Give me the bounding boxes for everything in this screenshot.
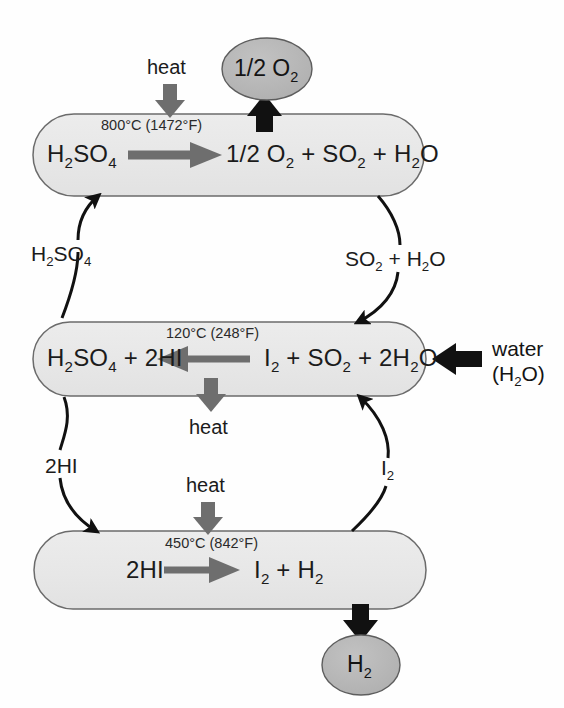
bubble-label-oxygen: 1/2 O2 (234, 57, 298, 84)
heat-arrow-in-top (155, 84, 185, 118)
heat-label-middle: heat (189, 417, 228, 437)
recycle-label-sulfuric-acid: H2SO4 (31, 243, 91, 268)
recycle-path-hydrogen-iodide-lower (60, 478, 96, 531)
recycle-label-iodine: I2 (381, 457, 394, 482)
recycle-path-iodine-lower (352, 486, 386, 531)
recycle-label-sulfur-dioxide-water: SO2 + H2O (345, 248, 446, 273)
temperature-label-bottom: 450°C (842°F) (165, 536, 258, 551)
recycle-path-sulfur-dioxide-upper (378, 196, 400, 245)
feed-arrow-water (432, 343, 482, 375)
process-flow-diagram: 1/2 O2 H2 heat 800°C (1472°F) H2SO4 1/2 … (0, 0, 564, 708)
recycle-label-hydrogen-iodide: 2HI (45, 455, 78, 476)
feed-label-water-line2: (H2O) (492, 362, 545, 390)
reactant-label-middle: I2 + SO2 + 2H2O (264, 346, 438, 374)
reactant-label-top: H2SO4 (47, 142, 117, 170)
product-label-top: 1/2 O2 + SO2 + H2O (226, 142, 439, 170)
recycle-path-iodine-upper (360, 397, 388, 458)
product-label-middle: H2SO4 + 2HI (47, 346, 183, 374)
heat-label-top: heat (147, 57, 186, 77)
heat-label-bottom: heat (186, 475, 225, 495)
temperature-label-middle: 120°C (248°F) (166, 326, 259, 341)
product-label-bottom: I2 + H2 (254, 558, 324, 586)
feed-label-water-line1: water (492, 337, 545, 362)
reactant-label-bottom: 2HI (126, 558, 164, 582)
feed-label-water: water (H2O) (492, 337, 545, 390)
recycle-path-hydrogen-iodide-upper (60, 397, 67, 450)
bubble-label-hydrogen: H2 (347, 653, 372, 680)
temperature-label-top: 800°C (1472°F) (101, 118, 202, 133)
heat-arrow-in-bottom (193, 502, 223, 535)
recycle-path-sulfur-dioxide-lower (358, 272, 398, 322)
recycle-path-sulfuric-acid-upper (78, 196, 98, 240)
